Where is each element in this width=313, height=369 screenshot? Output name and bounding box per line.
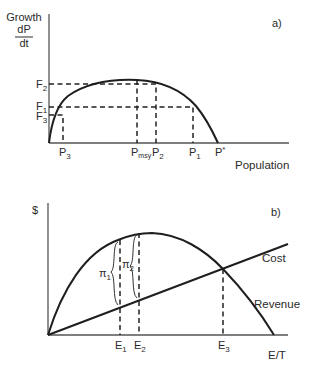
tick-p2: P2 [152, 146, 164, 161]
panel-a-tag: a) [272, 17, 282, 29]
growth-numerator: dP [17, 23, 30, 35]
tick-p1: P1 [189, 146, 201, 161]
tick-p3: P3 [59, 146, 71, 161]
f1-p1-guide [49, 107, 193, 143]
profit-brace-1 [111, 242, 118, 305]
dollar-label: $ [32, 204, 38, 216]
tick-f2: F2 [36, 78, 48, 93]
x-label-population: Population [235, 159, 289, 171]
revenue-label: Revenue [254, 298, 300, 310]
pi1-label: π1 [99, 267, 112, 282]
cost-label: Cost [262, 252, 286, 264]
panel-a: Growth dP dt a) F2 F1 F3 P3 Pmsy P2 P1 P… [6, 11, 289, 171]
revenue-curve [48, 233, 274, 335]
f2-p2-guide [49, 84, 156, 143]
tick-e1: E1 [115, 339, 127, 354]
cost-line [48, 244, 288, 335]
panel-b-tag: b) [271, 206, 281, 218]
growth-denominator: dt [19, 37, 28, 49]
tick-pstar: P* [215, 145, 225, 158]
panel-b: $ b) π1 π2 Cost Revenue E1 E2 E3 E/T [32, 203, 300, 361]
diagram-canvas: Growth dP dt a) F2 F1 F3 P3 Pmsy P2 P1 P… [0, 0, 313, 369]
x-label-et: E/T [268, 349, 286, 361]
growth-label: Growth [6, 11, 41, 23]
tick-pmsy: Pmsy [131, 146, 152, 160]
tick-e3: E3 [218, 339, 230, 354]
pi2-label: π2 [122, 258, 135, 273]
tick-e2: E2 [134, 339, 146, 354]
